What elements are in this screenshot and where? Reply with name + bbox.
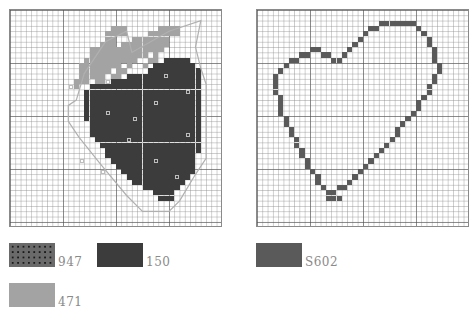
- heart-stitch-cell: [384, 143, 389, 148]
- heart-stitch-cell: [352, 42, 357, 47]
- legend-swatch-S602: [256, 243, 302, 267]
- heart-stitch-cell: [352, 174, 357, 179]
- legend-swatch-947: [9, 243, 55, 267]
- strawberry-pattern-grid: [9, 9, 222, 227]
- heart-stitch-cell: [294, 58, 299, 63]
- heart-stitch-cell: [368, 158, 373, 163]
- heart-stitch-cell: [416, 105, 421, 110]
- heart-stitch-cell: [284, 63, 289, 68]
- heart-stitch-cell: [395, 132, 400, 137]
- heart-outline-cells: [257, 10, 468, 226]
- heart-stitch-cell: [347, 47, 352, 52]
- legend-swatch-471: [9, 283, 55, 307]
- heart-stitch-cell: [405, 116, 410, 121]
- heart-stitch-cell: [374, 153, 379, 158]
- heart-stitch-cell: [437, 68, 442, 73]
- heart-stitch-cell: [379, 148, 384, 153]
- heart-stitch-cell: [390, 137, 395, 142]
- heart-stitch-cell: [421, 95, 426, 100]
- heart-stitch-cell: [363, 164, 368, 169]
- heart-stitch-cell: [342, 185, 347, 190]
- heart-stitch-cell: [358, 37, 363, 42]
- heart-stitch-cell: [278, 68, 283, 73]
- heart-stitch-cell: [342, 52, 347, 57]
- heart-pattern-grid: [256, 9, 469, 227]
- heart-stitch-cell: [358, 169, 363, 174]
- legend-swatch-150: [97, 243, 143, 267]
- legend-label-S602: S602: [305, 255, 338, 269]
- strawberry-outline: [10, 10, 223, 228]
- legend-label-150: 150: [146, 255, 170, 269]
- heart-stitch-cell: [363, 31, 368, 36]
- heart-stitch-cell: [427, 90, 432, 95]
- heart-stitch-cell: [374, 26, 379, 31]
- heart-stitch-cell: [337, 58, 342, 63]
- legend-label-947: 947: [58, 255, 82, 269]
- heart-stitch-cell: [411, 111, 416, 116]
- heart-stitch-cell: [432, 79, 437, 84]
- heart-stitch-cell: [305, 52, 310, 57]
- heart-stitch-cell: [400, 121, 405, 126]
- heart-stitch-cell: [347, 180, 352, 185]
- heart-stitch-cell: [337, 196, 342, 201]
- legend-label-471: 471: [58, 295, 82, 309]
